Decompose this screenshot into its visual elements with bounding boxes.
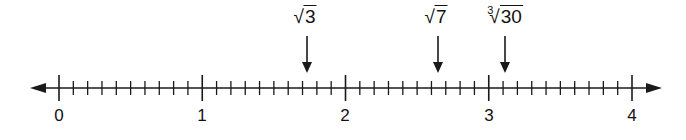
tick-label-0: 0 [54,106,63,126]
tick-label-3: 3 [484,106,493,126]
tick-label-4: 4 [627,106,636,126]
radical-sign-icon: √ [293,6,303,28]
marker-label-sqrt7: √7 [428,6,447,28]
tick-label-1: 1 [197,106,206,126]
arrow-down-icon [500,62,510,73]
arrow-down-icon [433,62,443,73]
marker-label-sqrt3: √3 [297,6,316,28]
radical-sign-icon: √ [424,6,434,28]
tick-label-2: 2 [340,106,349,126]
arrow-down-icon [302,62,312,73]
arrow-left-icon [30,83,46,93]
marker-label-cbrt30: 3√30 [487,6,523,28]
number-line-diagram: 0 1 2 3 4 √3 √7 3√30 [0,0,686,140]
arrow-right-icon [646,83,662,93]
